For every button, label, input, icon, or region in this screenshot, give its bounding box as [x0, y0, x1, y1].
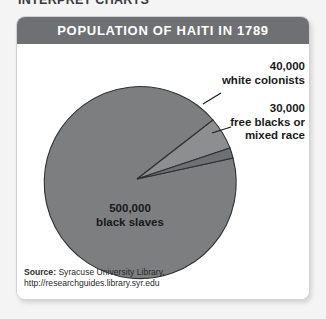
- callout-white-colonists: 40,000 white colonists: [185, 60, 305, 87]
- source-label: Source:: [24, 267, 56, 277]
- slice-label-black-slaves: 500,000 black slaves: [65, 201, 195, 229]
- source-url: http://researchguides.library.syr.edu: [24, 278, 304, 289]
- source-citation: Source: Syracuse University Library, htt…: [24, 267, 304, 288]
- source-text: Syracuse University Library,: [56, 267, 165, 277]
- slice-label-black-slaves-name: black slaves: [65, 215, 195, 229]
- chart-card: POPULATION OF HAITI IN 1789 40,000 white…: [16, 16, 310, 300]
- callout-free-blacks-value: 30,000: [185, 102, 305, 116]
- chart-body: 40,000 white colonists 30,000 free black…: [17, 44, 310, 300]
- section-heading: INTERPRET CHARTS: [18, 0, 308, 7]
- callout-free-blacks: 30,000 free blacks or mixed race: [185, 102, 305, 143]
- callout-white-colonists-name: white colonists: [185, 74, 305, 88]
- chart-title-bar: POPULATION OF HAITI IN 1789: [17, 17, 309, 44]
- slice-label-black-slaves-value: 500,000: [65, 201, 195, 215]
- chart-title: POPULATION OF HAITI IN 1789: [57, 23, 269, 38]
- callout-free-blacks-name-line2: mixed race: [185, 129, 305, 143]
- callout-free-blacks-name-line1: free blacks or: [185, 116, 305, 130]
- source-line-1: Source: Syracuse University Library,: [24, 267, 304, 278]
- callout-white-colonists-value: 40,000: [185, 60, 305, 74]
